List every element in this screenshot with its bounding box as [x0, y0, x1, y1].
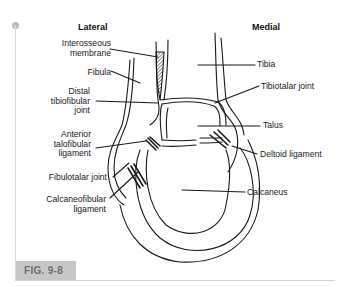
anterior-talofibular-ligament: [146, 137, 160, 150]
calcaneus-outer: [136, 148, 253, 251]
ankle-joint-illustration: [0, 0, 347, 287]
deltoid-ligament: [210, 130, 230, 148]
calcaneus-inner: [146, 150, 229, 233]
heel-pad-outer: [120, 140, 260, 262]
fibula-outer: [108, 60, 130, 205]
calcaneofibular-ligament: [128, 164, 146, 188]
